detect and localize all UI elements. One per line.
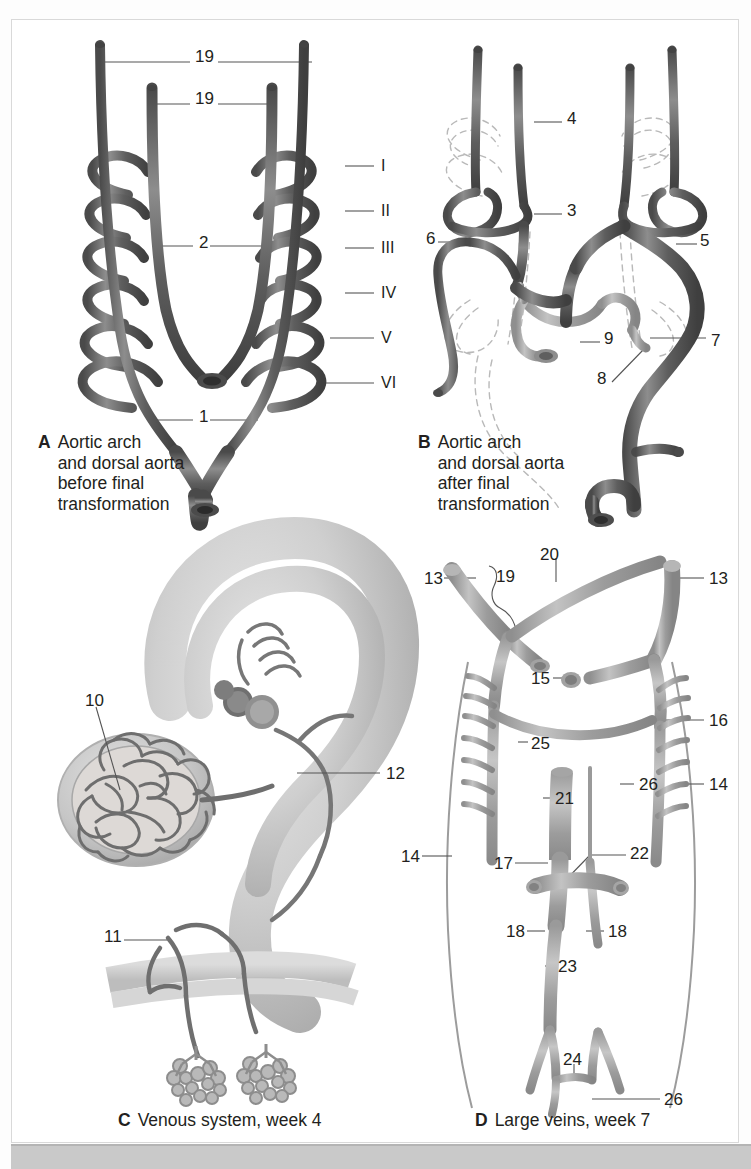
label-c-11: 11: [104, 928, 122, 945]
label-a-VI: VI: [381, 375, 396, 391]
label-a-III: III: [381, 240, 394, 256]
caption-panel-c: CVenous system, week 4: [118, 1110, 322, 1131]
caption-panel-b: BAortic arch and dorsal aorta after fina…: [418, 432, 564, 514]
label-a-19: 19: [195, 90, 214, 107]
caption-panel-a: AAortic arch and dorsal aorta before fin…: [38, 432, 184, 514]
label-a-II: II: [381, 203, 390, 219]
label-d-13: 13: [424, 570, 443, 587]
label-b-5: 5: [700, 232, 709, 249]
label-d-14: 14: [709, 776, 728, 793]
label-a-19: 19: [195, 48, 214, 65]
caption-letter-b: B: [418, 432, 431, 453]
label-d-23: 23: [558, 958, 577, 975]
label-a-I: I: [381, 158, 385, 174]
label-d-24: 24: [563, 1051, 582, 1068]
label-a-2: 2: [199, 234, 208, 251]
label-b-4: 4: [567, 110, 576, 127]
caption-panel-d: DLarge veins, week 7: [475, 1110, 650, 1131]
label-d-20: 20: [540, 546, 559, 563]
label-d-26: 26: [639, 776, 658, 793]
label-d-19: 19: [496, 568, 515, 585]
label-b-9: 9: [604, 330, 613, 347]
label-d-17: 17: [494, 855, 513, 872]
caption-letter-d: D: [475, 1110, 488, 1131]
figure-plate-border: [11, 19, 739, 1143]
label-d-21: 21: [555, 790, 574, 807]
label-a-1: 1: [199, 408, 208, 425]
label-b-7: 7: [711, 332, 720, 349]
label-c-10: 10: [85, 692, 104, 709]
label-d-18: 18: [506, 923, 525, 940]
page-bottom-band: [11, 1146, 751, 1169]
label-b-3: 3: [567, 202, 576, 219]
caption-text-c: Venous system, week 4: [138, 1110, 322, 1131]
label-b-8: 8: [597, 370, 606, 387]
label-d-14: 14: [401, 848, 420, 865]
label-c-12: 12: [386, 765, 405, 782]
label-d-16: 16: [709, 712, 728, 729]
label-d-18: 18: [608, 923, 627, 940]
label-d-26: 26: [664, 1091, 683, 1108]
caption-letter-c: C: [118, 1110, 131, 1131]
label-d-13: 13: [709, 570, 728, 587]
caption-text-b: Aortic arch and dorsal aorta after final…: [438, 432, 564, 514]
label-a-V: V: [381, 330, 392, 346]
caption-text-d: Large veins, week 7: [495, 1110, 651, 1131]
label-d-22: 22: [630, 845, 649, 862]
label-b-6: 6: [426, 230, 435, 247]
label-a-IV: IV: [381, 285, 396, 301]
label-d-25: 25: [531, 735, 550, 752]
caption-letter-a: A: [38, 432, 51, 453]
caption-text-a: Aortic arch and dorsal aorta before fina…: [58, 432, 184, 514]
label-d-15: 15: [531, 670, 550, 687]
figure-page: 191921IIIIIIIVVVI43659781012111319201315…: [0, 0, 751, 1169]
